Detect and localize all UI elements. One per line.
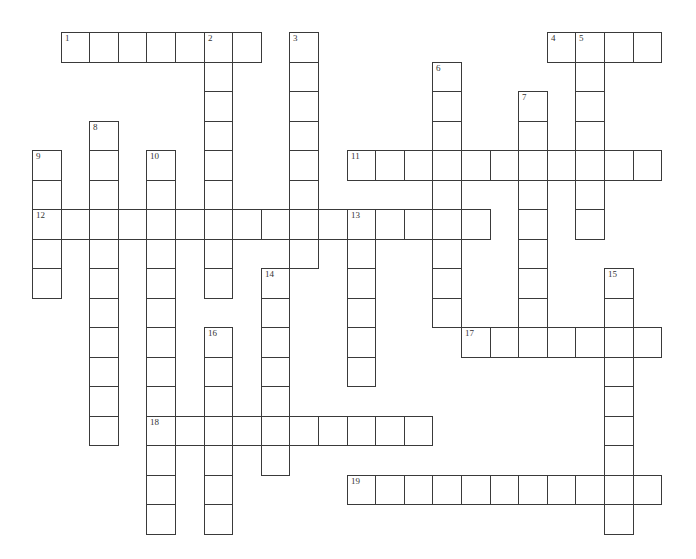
crossword-cell[interactable] — [261, 445, 290, 476]
crossword-cell[interactable] — [89, 239, 119, 269]
crossword-cell[interactable] — [375, 475, 405, 505]
crossword-cell[interactable] — [575, 62, 605, 92]
crossword-cell[interactable]: 19 — [347, 475, 376, 505]
crossword-cell[interactable] — [146, 445, 176, 476]
crossword-cell[interactable] — [604, 327, 634, 358]
crossword-cell[interactable] — [289, 62, 319, 92]
crossword-cell[interactable] — [404, 209, 433, 240]
crossword-cell[interactable] — [604, 298, 634, 328]
crossword-cell[interactable] — [347, 327, 376, 358]
crossword-cell[interactable] — [518, 180, 548, 210]
crossword-cell[interactable] — [575, 180, 605, 210]
crossword-cell[interactable] — [518, 209, 548, 240]
crossword-cell[interactable] — [89, 357, 119, 387]
crossword-cell[interactable] — [518, 298, 548, 328]
crossword-cell[interactable] — [32, 180, 62, 210]
crossword-cell[interactable] — [633, 327, 662, 358]
crossword-cell[interactable] — [175, 209, 205, 240]
crossword-cell[interactable] — [118, 32, 147, 63]
crossword-cell[interactable] — [432, 150, 462, 181]
crossword-cell[interactable] — [490, 327, 519, 358]
crossword-cell[interactable] — [575, 209, 605, 240]
crossword-cell[interactable] — [89, 32, 119, 63]
crossword-cell[interactable]: 4 — [547, 32, 576, 63]
crossword-cell[interactable] — [547, 327, 576, 358]
crossword-cell[interactable] — [146, 357, 176, 387]
crossword-cell[interactable] — [204, 91, 233, 122]
crossword-cell[interactable] — [633, 475, 662, 505]
crossword-cell[interactable] — [432, 268, 462, 299]
crossword-cell[interactable] — [347, 357, 376, 387]
crossword-cell[interactable] — [204, 445, 233, 476]
crossword-cell[interactable] — [461, 209, 491, 240]
crossword-cell[interactable] — [575, 150, 605, 181]
crossword-cell[interactable] — [261, 298, 290, 328]
crossword-cell[interactable] — [375, 150, 405, 181]
crossword-cell[interactable]: 10 — [146, 150, 176, 181]
crossword-cell[interactable] — [118, 209, 147, 240]
crossword-cell[interactable] — [232, 209, 262, 240]
crossword-cell[interactable]: 14 — [261, 268, 290, 299]
crossword-cell[interactable] — [261, 357, 290, 387]
crossword-cell[interactable] — [432, 298, 462, 328]
crossword-cell[interactable] — [175, 32, 205, 63]
crossword-cell[interactable] — [547, 150, 576, 181]
crossword-cell[interactable] — [204, 357, 233, 387]
crossword-cell[interactable] — [89, 327, 119, 358]
crossword-cell[interactable] — [61, 209, 90, 240]
crossword-cell[interactable] — [204, 475, 233, 505]
crossword-cell[interactable] — [575, 91, 605, 122]
crossword-cell[interactable] — [432, 180, 462, 210]
crossword-cell[interactable] — [89, 386, 119, 417]
crossword-cell[interactable] — [490, 150, 519, 181]
crossword-cell[interactable] — [289, 150, 319, 181]
crossword-cell[interactable] — [518, 121, 548, 151]
crossword-cell[interactable] — [432, 475, 462, 505]
crossword-cell[interactable] — [232, 416, 262, 446]
crossword-cell[interactable] — [146, 32, 176, 63]
crossword-cell[interactable] — [575, 475, 605, 505]
crossword-cell[interactable] — [146, 268, 176, 299]
crossword-cell[interactable] — [204, 386, 233, 417]
crossword-cell[interactable] — [604, 416, 634, 446]
crossword-cell[interactable] — [204, 62, 233, 92]
crossword-cell[interactable] — [204, 180, 233, 210]
crossword-cell[interactable]: 13 — [347, 209, 376, 240]
crossword-cell[interactable] — [89, 180, 119, 210]
crossword-cell[interactable] — [633, 32, 662, 63]
crossword-cell[interactable] — [347, 416, 376, 446]
crossword-cell[interactable] — [261, 416, 290, 446]
crossword-cell[interactable] — [575, 327, 605, 358]
crossword-cell[interactable] — [575, 121, 605, 151]
crossword-cell[interactable] — [175, 416, 205, 446]
crossword-cell[interactable] — [432, 239, 462, 269]
crossword-cell[interactable] — [204, 150, 233, 181]
crossword-cell[interactable] — [432, 91, 462, 122]
crossword-cell[interactable] — [518, 150, 548, 181]
crossword-cell[interactable] — [518, 475, 548, 505]
crossword-cell[interactable] — [261, 209, 290, 240]
crossword-cell[interactable] — [375, 209, 405, 240]
crossword-cell[interactable] — [32, 239, 62, 269]
crossword-cell[interactable] — [146, 504, 176, 535]
crossword-cell[interactable]: 3 — [289, 32, 319, 63]
crossword-cell[interactable] — [89, 416, 119, 446]
crossword-cell[interactable] — [375, 416, 405, 446]
crossword-cell[interactable] — [146, 298, 176, 328]
crossword-cell[interactable] — [604, 386, 634, 417]
crossword-cell[interactable] — [604, 445, 634, 476]
crossword-cell[interactable] — [89, 209, 119, 240]
crossword-cell[interactable] — [204, 239, 233, 269]
crossword-cell[interactable] — [289, 239, 319, 269]
crossword-cell[interactable] — [432, 209, 462, 240]
crossword-cell[interactable] — [232, 32, 262, 63]
crossword-cell[interactable] — [289, 121, 319, 151]
crossword-cell[interactable] — [318, 416, 348, 446]
crossword-cell[interactable]: 2 — [204, 32, 233, 63]
crossword-cell[interactable]: 6 — [432, 62, 462, 92]
crossword-cell[interactable] — [604, 357, 634, 387]
crossword-cell[interactable] — [518, 327, 548, 358]
crossword-cell[interactable] — [490, 475, 519, 505]
crossword-cell[interactable] — [289, 180, 319, 210]
crossword-cell[interactable] — [146, 386, 176, 417]
